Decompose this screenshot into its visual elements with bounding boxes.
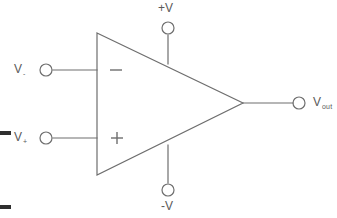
left-edge-crop-mark-upper <box>0 131 11 135</box>
opamp-schematic <box>0 0 337 218</box>
inverting-input-terminal-node[interactable] <box>40 64 52 76</box>
schematic-canvas: V- V+ Vout +V -V <box>0 0 337 218</box>
plus-sign-icon <box>111 132 123 144</box>
left-edge-crop-mark-lower <box>0 205 11 209</box>
negative-supply-terminal-node[interactable] <box>162 184 174 196</box>
noninverting-input-terminal-node[interactable] <box>40 132 52 144</box>
positive-supply-terminal-node[interactable] <box>162 22 174 34</box>
inverting-input-label-subscript: - <box>23 70 26 77</box>
noninverting-input-label: V+ <box>14 131 26 143</box>
output-terminal-node[interactable] <box>293 97 305 109</box>
positive-supply-label: +V <box>158 2 173 14</box>
inverting-input-label-base: V <box>14 62 22 76</box>
noninverting-input-label-subscript: + <box>23 138 27 145</box>
output-label-subscript: out <box>322 103 332 110</box>
negative-supply-label: -V <box>161 200 173 212</box>
inverting-input-label: V- <box>14 63 25 75</box>
output-label-base: V <box>313 95 321 109</box>
noninverting-input-label-base: V <box>14 130 22 144</box>
output-label: Vout <box>313 96 331 108</box>
opamp-triangle-body <box>97 33 243 175</box>
